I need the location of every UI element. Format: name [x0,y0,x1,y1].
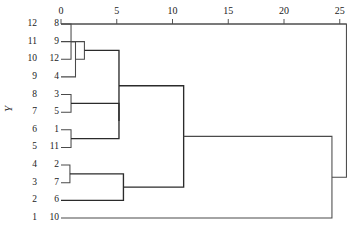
dendrogram-links [61,24,346,218]
dendrogram-link [84,50,119,121]
dendrogram-link [71,42,84,60]
dendrogram-link [119,86,184,187]
dendrogram-link [61,136,332,218]
dendrogram-link [61,165,70,183]
x-axis [61,19,346,24]
dendrogram-plot [0,0,358,241]
dendrogram-link [71,103,119,138]
dendrogram-link [61,130,71,148]
dendrogram-link [61,95,71,113]
dendrogram-link [61,24,346,177]
dendrogram-figure: Y 0510152025 121110987654321 89124351112… [0,0,358,241]
